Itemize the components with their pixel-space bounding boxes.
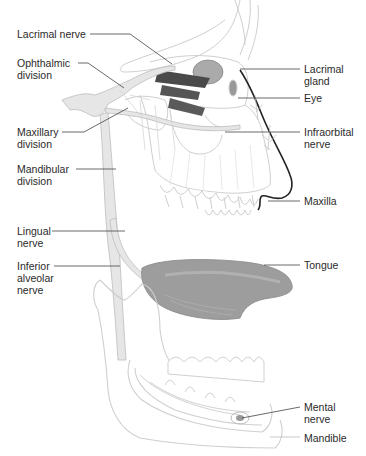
label-tongue: Tongue xyxy=(304,259,338,271)
label-ophthalmic-division: Ophthalmic division xyxy=(17,57,70,81)
label-mental-nerve: Mental nerve xyxy=(304,401,336,425)
eye-shape xyxy=(229,80,237,96)
mental-foramen xyxy=(231,412,249,424)
upper-teeth xyxy=(160,185,258,215)
eye-muscles xyxy=(155,70,210,116)
label-maxillary-division: Maxillary division xyxy=(17,126,58,150)
label-mandibular-division: Mandibular division xyxy=(17,163,69,187)
label-eye: Eye xyxy=(304,92,322,104)
lower-teeth xyxy=(168,357,264,382)
label-infraorbital-nerve: Infraorbital nerve xyxy=(304,126,354,150)
tongue-shape xyxy=(142,260,293,320)
label-lacrimal-nerve: Lacrimal nerve xyxy=(17,28,86,40)
label-lingual-nerve: Lingual nerve xyxy=(17,225,51,249)
label-maxilla: Maxilla xyxy=(304,195,337,207)
label-inferior-alveolar-nerve: Inferior alveolar nerve xyxy=(17,260,54,296)
label-lacrimal-gland: Lacrimal gland xyxy=(304,63,344,87)
label-mandible: Mandible xyxy=(304,432,347,444)
